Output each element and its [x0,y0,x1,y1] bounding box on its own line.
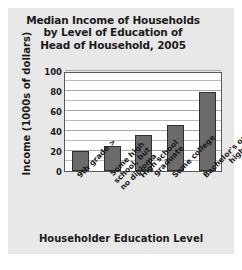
y-axis-tick-label: 0 [38,167,62,177]
x-axis-title: Householder Education Level [8,233,234,244]
chart-title-line-1: Median Income of Households [8,14,218,26]
x-axis-tick-labels: < 9th gradeSome highschool, butno diplom… [64,174,222,230]
chart-title-line-2: by Level of Education of [8,26,218,38]
chart-screenshot: Median Income of Households by Level of … [0,0,242,270]
y-axis-tick-label: 60 [38,107,62,117]
y-axis-tick-label: 100 [38,67,62,77]
bar[interactable] [199,92,216,171]
chart-title-line-3: Head of Household, 2005 [8,39,218,51]
y-axis-tick-label: 80 [38,87,62,97]
y-axis-title: Income (1000s of dollars) [21,52,32,176]
gridline [65,70,221,71]
y-axis-tick-labels: 020406080100 [36,72,62,172]
chart-title: Median Income of Households by Level of … [8,14,218,51]
y-axis-tick-label: 40 [38,127,62,137]
y-axis-tick-label: 20 [38,147,62,157]
